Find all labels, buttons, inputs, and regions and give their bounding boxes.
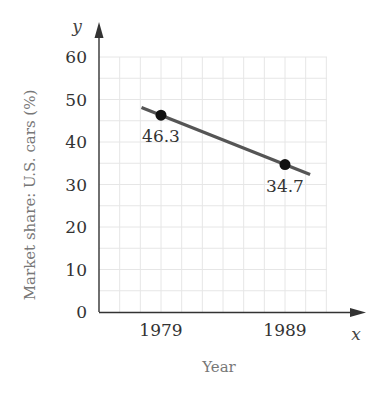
x-tick-label: 1979 <box>139 320 182 340</box>
y-axis-variable: y <box>71 16 82 36</box>
x-axis-title: Year <box>201 358 236 376</box>
x-axis-arrow-icon <box>350 308 366 317</box>
y-axis-title: Market share: U.S. cars (%) <box>21 90 39 301</box>
y-tick-label: 10 <box>65 260 87 280</box>
y-tick-label: 60 <box>65 47 87 67</box>
x-tick-label: 1989 <box>263 320 306 340</box>
y-tick-labels: 0102030405060 <box>65 47 87 322</box>
y-axis-arrow-icon <box>95 22 104 38</box>
y-tick-label: 0 <box>76 302 87 322</box>
x-axis-variable: x <box>351 324 361 344</box>
y-tick-label: 40 <box>65 132 87 152</box>
y-axis <box>95 22 104 312</box>
data-point-marker <box>156 110 167 121</box>
y-tick-label: 20 <box>65 217 87 237</box>
line-chart: 0102030405060 19791989 y x Market share:… <box>0 0 388 393</box>
y-tick-label: 50 <box>65 90 87 110</box>
data-point-label: 46.3 <box>142 126 180 146</box>
x-tick-labels: 19791989 <box>139 320 306 340</box>
data-point-marker <box>280 159 291 170</box>
y-tick-label: 30 <box>65 175 87 195</box>
data-point-label: 34.7 <box>266 176 304 196</box>
